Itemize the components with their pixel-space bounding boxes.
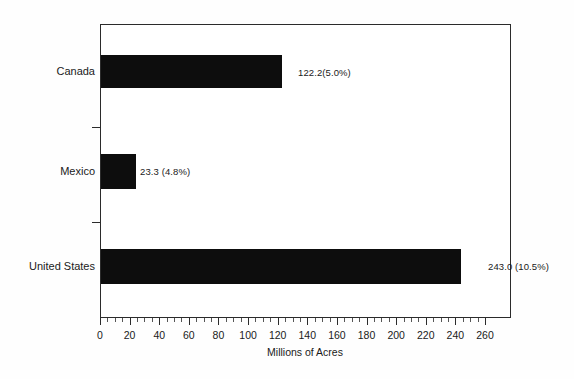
x-tick-major (307, 318, 308, 325)
x-tick-major (367, 318, 368, 325)
x-tick-minor (167, 318, 168, 322)
x-axis-title-text: Millions of Acres (267, 346, 343, 358)
data-label-united-states: 243.0 (10.5%) (488, 261, 549, 272)
x-tick-minor (411, 318, 412, 322)
x-tick-label: 260 (476, 329, 494, 341)
x-tick-major (337, 318, 338, 325)
x-tick-major (218, 318, 219, 325)
x-tick-minor (255, 318, 256, 322)
x-tick-minor (441, 318, 442, 322)
x-tick-minor (122, 318, 123, 322)
x-tick-minor (270, 318, 271, 322)
x-tick-major (189, 318, 190, 325)
x-tick-minor (204, 318, 205, 322)
x-tick-minor (433, 318, 434, 322)
x-tick-minor (463, 318, 464, 322)
bar-mexico (101, 154, 136, 189)
data-label-mexico: 23.3 (4.8%) (140, 166, 190, 177)
x-tick-minor (115, 318, 116, 322)
data-label-canada: 122.2(5.0%) (298, 67, 351, 78)
category-label-united-states: United States (3, 260, 95, 272)
category-label-canada: Canada (3, 65, 95, 77)
x-tick-minor (137, 318, 138, 322)
y-axis-tick-1 (92, 127, 100, 128)
x-tick-minor (404, 318, 405, 322)
category-label-mexico: Mexico (3, 165, 95, 177)
x-tick-major (485, 318, 486, 325)
x-tick-minor (315, 318, 316, 322)
x-tick-label: 40 (153, 329, 165, 341)
x-tick-label: 20 (124, 329, 136, 341)
x-tick-major (130, 318, 131, 325)
bar-united-states (101, 249, 461, 284)
x-tick-minor (478, 318, 479, 322)
x-tick-minor (352, 318, 353, 322)
x-tick-minor (241, 318, 242, 322)
x-tick-minor (381, 318, 382, 322)
x-tick-minor (174, 318, 175, 322)
bar-canada (101, 55, 282, 88)
bar-chart: 122.2(5.0%) 23.3 (4.8%) 243.0 (10.5%) Ca… (0, 0, 574, 379)
x-tick-minor (144, 318, 145, 322)
x-tick-minor (322, 318, 323, 322)
x-axis-tick-labels: 020406080100120140160180200220240260 (100, 329, 512, 345)
x-tick-minor (359, 318, 360, 322)
x-tick-major (159, 318, 160, 325)
x-tick-minor (293, 318, 294, 322)
x-tick-minor (196, 318, 197, 322)
x-tick-minor (344, 318, 345, 322)
x-tick-major (248, 318, 249, 325)
x-tick-label: 180 (358, 329, 376, 341)
x-tick-minor (285, 318, 286, 322)
x-tick-label: 60 (183, 329, 195, 341)
x-tick-major (100, 318, 101, 325)
x-tick-label: 120 (269, 329, 287, 341)
x-tick-minor (181, 318, 182, 322)
category-axis-labels: Canada Mexico United States (0, 0, 95, 379)
x-tick-label: 80 (213, 329, 225, 341)
x-tick-minor (374, 318, 375, 322)
x-tick-label: 200 (387, 329, 405, 341)
x-axis-ticks (100, 318, 512, 328)
x-tick-minor (300, 318, 301, 322)
x-tick-minor (330, 318, 331, 322)
x-tick-label: 140 (299, 329, 317, 341)
x-tick-major (278, 318, 279, 325)
x-tick-minor (389, 318, 390, 322)
x-tick-minor (470, 318, 471, 322)
x-tick-major (426, 318, 427, 325)
x-tick-label: 100 (239, 329, 257, 341)
x-tick-minor (418, 318, 419, 322)
x-tick-minor (211, 318, 212, 322)
x-tick-label: 240 (447, 329, 465, 341)
x-tick-minor (263, 318, 264, 322)
x-tick-label: 0 (97, 329, 103, 341)
x-tick-minor (107, 318, 108, 322)
x-tick-major (455, 318, 456, 325)
x-tick-label: 160 (328, 329, 346, 341)
x-tick-minor (448, 318, 449, 322)
x-tick-minor (152, 318, 153, 322)
x-tick-minor (226, 318, 227, 322)
x-tick-major (396, 318, 397, 325)
x-tick-label: 220 (417, 329, 435, 341)
x-axis-title: Millions of Acres (0, 346, 574, 358)
y-axis-tick-2 (92, 222, 100, 223)
x-tick-minor (233, 318, 234, 322)
